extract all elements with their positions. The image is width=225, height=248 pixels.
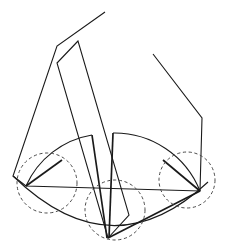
sector-chord (108, 191, 200, 238)
sector-radius-left (26, 160, 62, 186)
sector-radius-right (163, 160, 200, 191)
drawing-canvas: geometric line drawing Two overlapping e… (0, 0, 225, 248)
line-drawing-figure: geometric line drawing Two overlapping e… (0, 0, 225, 248)
outer-polygon (13, 12, 202, 191)
sector-spoke-left (92, 135, 107, 238)
